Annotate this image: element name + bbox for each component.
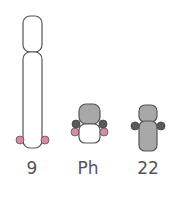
pink-knob-left (71, 128, 79, 136)
chromosome-22 (131, 105, 165, 151)
dark-knob-right (99, 120, 107, 128)
pink-knob-right (41, 136, 49, 144)
dark-knob-left (131, 122, 139, 130)
label-chr22: 22 (128, 158, 168, 178)
label-chr9: 9 (12, 158, 52, 178)
chromosome-9 (16, 16, 49, 148)
pink-knob-right (100, 128, 108, 136)
pink-knob-left (16, 136, 24, 144)
chromosome-ph (71, 104, 108, 143)
label-ph: Ph (68, 158, 108, 178)
dark-knob-right (157, 122, 165, 130)
dark-knob-left (72, 120, 80, 128)
